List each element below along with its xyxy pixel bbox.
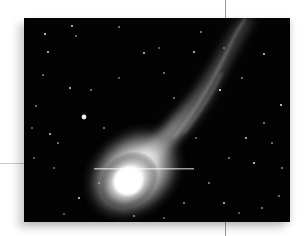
comet-photo (24, 18, 290, 222)
guide-line-horizontal-left (0, 163, 24, 164)
guide-line-vertical-top (225, 0, 226, 18)
comet-illustration (24, 18, 290, 222)
guide-line-vertical-bottom (225, 222, 226, 236)
